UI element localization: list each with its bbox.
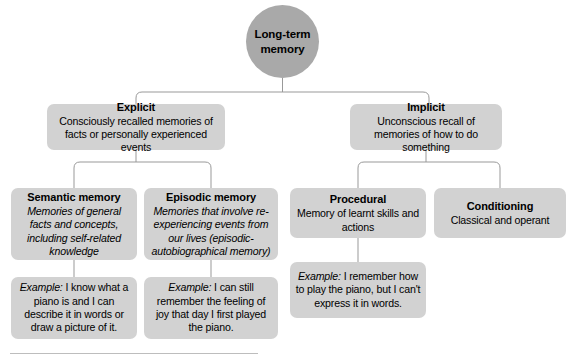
conditioning-title: Conditioning	[467, 199, 534, 213]
explicit-title: Explicit	[117, 100, 155, 114]
node-explicit: Explicit Consciously recalled memories o…	[47, 104, 225, 150]
footer-divider	[10, 353, 258, 354]
connector-root-split	[136, 92, 429, 104]
procedural-description: Memory of learnt skills and actions	[290, 207, 426, 233]
long-term-memory-diagram: Long-term memory Explicit Consciously re…	[0, 0, 575, 364]
node-episodic-memory: Episodic memory Memories that involve re…	[144, 188, 278, 260]
example-episodic-label: Example:	[168, 281, 211, 293]
implicit-description: Unconscious recall of memories of how to…	[350, 115, 502, 155]
implicit-title: Implicit	[407, 100, 445, 114]
conditioning-description: Classical and operant	[447, 214, 554, 227]
procedural-title: Procedural	[330, 192, 386, 206]
example-episodic-memory: Example: I can still remember the feelin…	[144, 277, 278, 339]
semantic-description: Memories of general facts and concepts, …	[11, 205, 137, 258]
node-conditioning: Conditioning Classical and operant	[434, 188, 566, 238]
node-long-term-memory: Long-term memory	[246, 5, 319, 78]
connector-implicit-split	[358, 162, 500, 188]
node-semantic-memory: Semantic memory Memories of general fact…	[11, 188, 137, 260]
episodic-description: Memories that involve re-experiencing ev…	[144, 205, 278, 258]
example-procedural-text: Example: I remember how to play the pian…	[290, 270, 426, 310]
node-procedural: Procedural Memory of learnt skills and a…	[290, 188, 426, 238]
example-semantic-memory: Example: I know what a piano is and I ca…	[11, 277, 137, 339]
example-procedural-label: Example:	[298, 270, 341, 282]
episodic-title: Episodic memory	[166, 190, 256, 204]
node-implicit: Implicit Unconscious recall of memories …	[350, 104, 502, 150]
example-procedural: Example: I remember how to play the pian…	[290, 262, 426, 318]
connector-explicit-split	[74, 162, 211, 188]
root-label: Long-term memory	[246, 27, 319, 57]
semantic-title: Semantic memory	[27, 190, 120, 204]
explicit-description: Consciously recalled memories of facts o…	[47, 115, 225, 155]
example-semantic-text: Example: I know what a piano is and I ca…	[11, 281, 137, 335]
example-episodic-text: Example: I can still remember the feelin…	[144, 281, 278, 335]
example-semantic-label: Example:	[20, 281, 63, 293]
